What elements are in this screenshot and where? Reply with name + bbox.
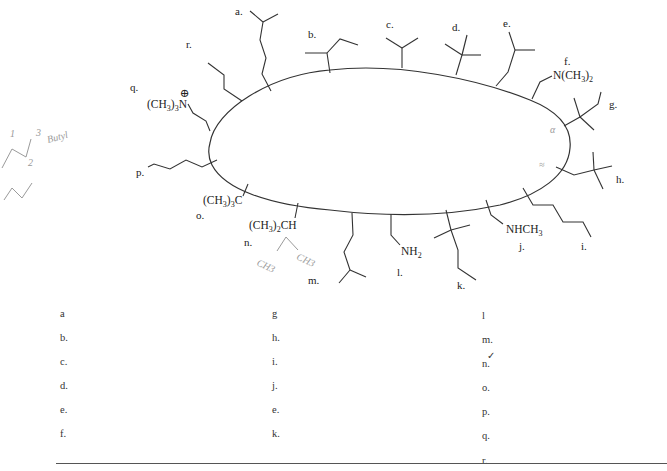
svg-text:N(CH3)2: N(CH3)2 — [553, 69, 593, 84]
answer-label-d: d. — [60, 380, 68, 391]
answer-label-r: r. — [482, 455, 488, 466]
substituent-f: f. N(CH3)2 — [532, 55, 593, 99]
bottom-rule — [56, 463, 667, 464]
substituent-j: NHCH3 j. — [486, 200, 543, 252]
svg-text:CH3: CH3 — [295, 251, 317, 269]
svg-text:l.: l. — [397, 266, 403, 278]
svg-text:≈: ≈ — [539, 159, 545, 170]
svg-text:(CH3)3N: (CH3)3N — [147, 98, 188, 113]
substituent-n: (CH3)2CH n. CH3 CH3 — [244, 203, 317, 275]
answer-label-f: f. — [60, 428, 66, 439]
svg-text:1: 1 — [10, 128, 15, 139]
answer-label-k: k. — [272, 428, 280, 439]
answer-label-e: e. — [60, 404, 67, 415]
central-ring — [209, 68, 571, 215]
substituent-diagram: a. b. c. d. e. f. N(CH3)2 g. α — [0, 0, 667, 300]
svg-text:b.: b. — [308, 28, 317, 40]
substituent-h: h. ≈ — [539, 152, 625, 189]
answer-label-o: o. — [482, 382, 490, 393]
substituent-c: c. — [386, 18, 418, 68]
answer-label-q: q. — [482, 430, 490, 441]
substituent-e: e. — [496, 17, 535, 86]
substituent-a: a. — [235, 5, 278, 91]
substituent-l: NH2 l. — [391, 214, 422, 278]
answer-label-m: m. — [482, 334, 493, 345]
substituent-m: m. — [308, 213, 366, 286]
svg-text:a.: a. — [235, 5, 243, 17]
svg-text:⊕: ⊕ — [180, 87, 190, 99]
check-mark-icon: ✓ — [487, 350, 495, 361]
answer-label-j: j. — [272, 380, 278, 391]
substituent-q: q. (CH3)3N ⊕ — [130, 81, 210, 131]
answer-label-a: a — [60, 308, 65, 319]
handwritten-butyl-note: 1 2 3 Butyl — [2, 127, 69, 200]
svg-text:(CH3)3C: (CH3)3C — [203, 194, 243, 209]
svg-text:NH2: NH2 — [401, 245, 422, 260]
svg-text:m.: m. — [308, 274, 320, 286]
svg-text:CH3: CH3 — [255, 257, 277, 275]
svg-text:c.: c. — [386, 18, 394, 30]
svg-text:o.: o. — [196, 209, 205, 221]
substituent-d: d. — [445, 21, 481, 75]
answer-label-b: b. — [60, 332, 68, 343]
answer-label-h: h. — [272, 332, 280, 343]
svg-text:α: α — [550, 124, 556, 135]
svg-text:j.: j. — [518, 240, 525, 252]
answer-list: a b. c. d. e. f. g h. i. j. e. k. l m. n… — [0, 300, 667, 471]
answer-label-e2: e. — [272, 404, 279, 415]
answer-label-c: c. — [60, 356, 67, 367]
answer-label-g: g — [272, 308, 277, 319]
svg-text:k.: k. — [457, 279, 466, 291]
substituent-g: g. α — [550, 92, 618, 135]
substituent-r: r. — [186, 38, 242, 101]
svg-text:Butyl: Butyl — [46, 129, 69, 145]
svg-text:p.: p. — [136, 166, 145, 178]
svg-text:g.: g. — [609, 98, 618, 110]
answer-label-l: l — [482, 310, 485, 321]
substituent-k: k. — [434, 210, 476, 291]
svg-text:r.: r. — [186, 38, 192, 50]
svg-text:i.: i. — [581, 240, 587, 252]
answer-label-p: p. — [482, 406, 490, 417]
svg-text:3: 3 — [35, 127, 41, 138]
substituent-p: p. — [136, 160, 217, 178]
svg-text:(CH3)2CH: (CH3)2CH — [249, 219, 297, 234]
substituent-b: b. — [305, 28, 358, 73]
svg-text:q.: q. — [130, 81, 139, 93]
answer-label-i: i. — [272, 356, 278, 367]
svg-text:d.: d. — [452, 21, 461, 33]
svg-text:h.: h. — [616, 173, 625, 185]
svg-text:n.: n. — [244, 236, 253, 248]
svg-text:e.: e. — [503, 17, 511, 29]
svg-text:NHCH3: NHCH3 — [506, 223, 543, 238]
substituent-i: i. — [523, 188, 591, 252]
svg-text:2: 2 — [28, 157, 33, 168]
svg-text:f.: f. — [564, 55, 571, 67]
